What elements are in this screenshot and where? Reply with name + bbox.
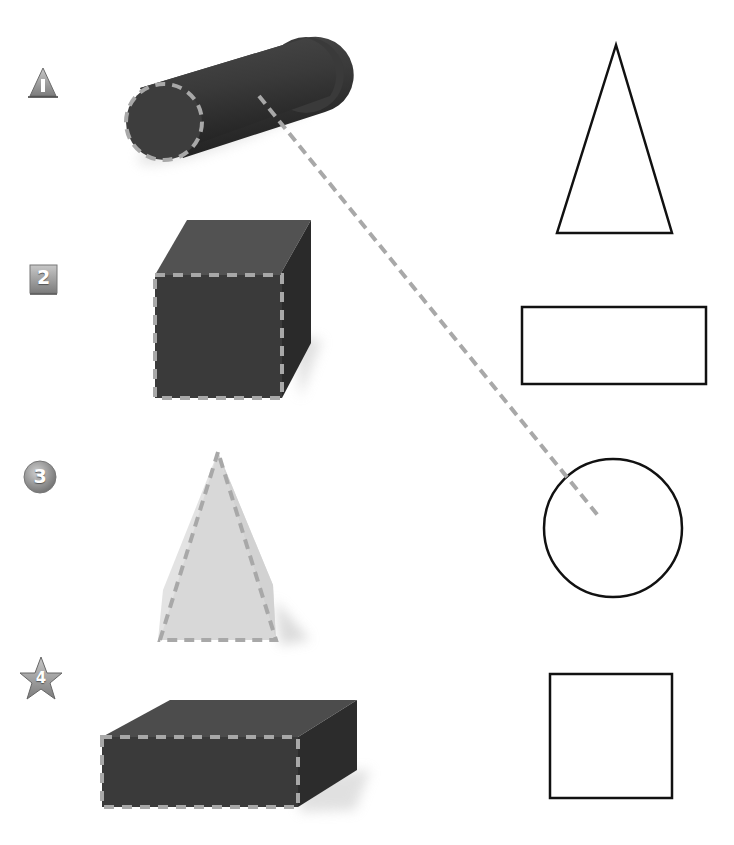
badge-4-number: 4 — [29, 669, 53, 687]
worksheet-canvas — [0, 0, 734, 845]
outline-triangle[interactable] — [557, 45, 672, 233]
badge-3-number: 3 — [24, 465, 56, 487]
outline-rectangle[interactable] — [522, 307, 706, 384]
cube-solid — [155, 220, 322, 398]
badge-1-triangle-icon — [28, 68, 58, 97]
cylinder-circular-face — [126, 84, 202, 160]
square-pyramid-solid — [158, 452, 310, 645]
prism-rectangular-face — [102, 737, 298, 807]
cube-square-face — [155, 275, 282, 398]
pyramid-triangular-face — [160, 452, 276, 640]
badge-2-number: 2 — [30, 266, 57, 288]
outline-square[interactable] — [550, 674, 672, 798]
outline-circle[interactable] — [544, 459, 682, 597]
cylinder-solid — [126, 37, 354, 180]
rectangular-prism-solid — [102, 700, 370, 812]
